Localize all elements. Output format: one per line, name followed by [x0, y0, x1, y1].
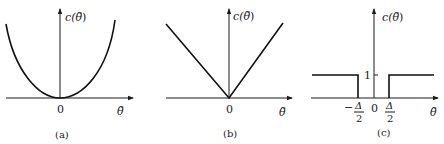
- svg-text:−: −: [344, 101, 353, 114]
- origin-label: 0: [57, 103, 64, 116]
- cost-functions-figure: c(θ̃) 0 θ̃ (a) c(θ̃) 0 θ̃ (b) c(θ̃) 1 0 …: [0, 0, 444, 144]
- svg-text:Δ: Δ: [385, 100, 393, 111]
- y-axis-label: c(θ̃): [65, 11, 86, 24]
- v-shape-curve: [166, 23, 283, 98]
- caption-b: (b): [223, 128, 237, 139]
- origin-label: 0: [226, 103, 233, 116]
- panel-b: c(θ̃) 0 θ̃ (b): [166, 9, 292, 139]
- panel-a: c(θ̃) 0 θ̃ (a): [6, 9, 133, 140]
- tick-label-pos-delta-half: Δ 2: [385, 100, 395, 124]
- svg-text:2: 2: [356, 113, 362, 124]
- tick-label-neg-delta-half: − Δ 2: [344, 100, 364, 124]
- caption-c: (c): [377, 127, 391, 138]
- panel-c: c(θ̃) 1 0 − Δ 2 Δ 2 θ̃ (c): [311, 9, 438, 138]
- x-axis-label: θ̃: [279, 106, 286, 119]
- svg-text:Δ: Δ: [354, 100, 362, 111]
- step-right: [389, 75, 434, 98]
- x-axis-label: θ̃: [430, 106, 437, 119]
- step-left: [312, 75, 358, 98]
- caption-a: (a): [55, 129, 69, 140]
- y-axis-label: c(θ̃): [233, 10, 254, 23]
- level-label-1: 1: [364, 69, 371, 82]
- x-axis-label: θ̃: [117, 105, 124, 118]
- svg-text:2: 2: [387, 113, 393, 124]
- y-axis-label: c(θ̃): [382, 11, 403, 24]
- origin-label: 0: [371, 102, 378, 115]
